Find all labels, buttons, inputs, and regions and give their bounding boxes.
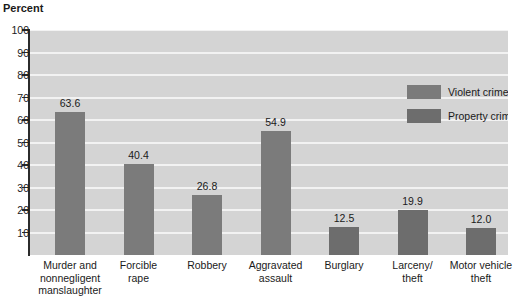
bar-value-label: 54.9: [254, 117, 298, 128]
y-axis-tick-label: 100: [7, 25, 29, 35]
bar-value-label: 63.6: [48, 98, 92, 109]
category-label-line: Motor vehicle: [441, 259, 517, 272]
y-axis-tick-label: 70: [7, 93, 29, 103]
bar-value-label: 26.8: [185, 181, 229, 192]
legend-label-violent: Violent crime: [448, 85, 508, 99]
category-label-line: manslaughter: [30, 284, 110, 297]
x-axis-category-label: Motor vehicletheft: [441, 259, 517, 284]
legend-swatch-property-icon: [407, 109, 441, 123]
bar: [329, 227, 359, 255]
category-label-line: rape: [99, 272, 179, 285]
bar: [192, 195, 222, 255]
y-axis-tick-label: 90: [7, 48, 29, 58]
legend-swatch-violent-icon: [407, 85, 441, 99]
bar-value-label: 40.4: [117, 150, 161, 161]
y-axis-tick-label: 20: [7, 205, 29, 215]
gridline: [29, 74, 508, 76]
bar: [55, 112, 85, 255]
bar: [398, 210, 428, 255]
legend-label-property: Property crime: [448, 109, 508, 123]
y-axis-title: Percent: [3, 2, 43, 14]
y-axis-tick-label: 40: [7, 160, 29, 170]
y-axis-tick-label: 50: [7, 138, 29, 148]
y-axis-tick-label: 10: [7, 228, 29, 238]
category-label-line: theft: [441, 272, 517, 285]
y-axis-tick-label: 30: [7, 183, 29, 193]
y-axis-tick-label: 80: [7, 70, 29, 80]
bar: [124, 164, 154, 255]
bar-value-label: 12.0: [459, 214, 503, 225]
category-label-line: assault: [236, 272, 316, 285]
gridline: [29, 30, 508, 31]
bar: [466, 228, 496, 255]
gridline: [29, 52, 508, 54]
bar-value-label: 19.9: [391, 196, 435, 207]
y-axis-tick-label: 60: [7, 115, 29, 125]
bar-value-label: 12.5: [322, 213, 366, 224]
bar: [261, 131, 291, 255]
plot-area: 63.640.426.854.912.519.912.0 Violent cri…: [29, 30, 508, 255]
